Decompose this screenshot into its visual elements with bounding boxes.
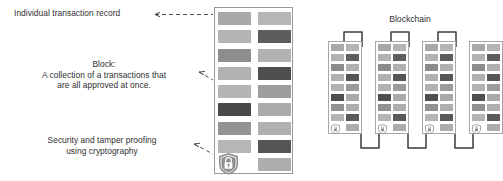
main-block-row: [218, 12, 291, 25]
transaction-bar: [393, 94, 406, 101]
transaction-bar: [472, 74, 485, 81]
transaction-bar: [346, 114, 359, 121]
transaction-bar: [331, 114, 344, 121]
transaction-bar: [378, 44, 391, 51]
transaction-bar: [487, 54, 500, 61]
blockchain-block-row: [425, 64, 453, 71]
blockchain-block-row: [472, 74, 500, 81]
transaction-bar: [393, 104, 406, 111]
blockchain-block-row: [472, 104, 500, 111]
shield-icon: [331, 124, 340, 134]
annotation-block-line-1: Block:: [8, 59, 200, 70]
main-block-row: [218, 140, 291, 153]
transaction-bar: [331, 104, 344, 111]
transaction-bar: [425, 84, 438, 91]
transaction-bar: [258, 103, 291, 116]
blockchain-block-row: [331, 54, 359, 61]
transaction-bar: [346, 54, 359, 61]
transaction-bar: [393, 114, 406, 121]
transaction-bar: [425, 64, 438, 71]
main-block-row: [218, 49, 291, 62]
transaction-bar: [472, 84, 485, 91]
transaction-bar: [487, 104, 500, 111]
transaction-bar: [346, 74, 359, 81]
transaction-bar: [346, 44, 359, 51]
blockchain-block-row: [378, 64, 406, 71]
blockchain-block-row: [331, 94, 359, 101]
transaction-bar: [218, 85, 251, 98]
transaction-bar: [378, 104, 391, 111]
transaction-bar: [487, 124, 500, 131]
annotation-block: Block: A collection of a transactions th…: [8, 59, 200, 91]
transaction-bar: [440, 74, 453, 81]
blockchain-block-row: [331, 74, 359, 81]
transaction-bar: [472, 94, 485, 101]
blockchain-block-row: [378, 124, 406, 131]
transaction-bar: [472, 54, 485, 61]
transaction-bar: [425, 104, 438, 111]
transaction-bar: [378, 54, 391, 61]
transaction-bar: [218, 49, 251, 62]
transaction-bar: [393, 64, 406, 71]
transaction-bar: [331, 44, 344, 51]
blockchain-block-row: [472, 94, 500, 101]
main-block-row: [218, 67, 291, 80]
main-block-row: [218, 30, 291, 43]
blockchain-block-row: [331, 64, 359, 71]
transaction-bar: [425, 94, 438, 101]
transaction-bar: [487, 94, 500, 101]
transaction-bar: [331, 54, 344, 61]
main-block-row: [218, 122, 291, 135]
transaction-bar: [346, 104, 359, 111]
blockchain-block-row: [472, 44, 500, 51]
blockchain-block-row: [378, 114, 406, 121]
annotation-security: Security and tamper proofing using crypt…: [14, 135, 190, 156]
blockchain-block-row: [425, 54, 453, 61]
transaction-bar: [425, 74, 438, 81]
blockchain-block-row: [331, 114, 359, 121]
transaction-bar: [378, 84, 391, 91]
blockchain-block-row: [425, 94, 453, 101]
transaction-bar: [440, 124, 453, 131]
main-block-rows: [218, 12, 291, 171]
blockchain-block-3: [422, 41, 456, 134]
main-block-row: [218, 158, 291, 171]
blockchain-block-row: [472, 64, 500, 71]
transaction-bar: [440, 84, 453, 91]
transaction-bar: [258, 122, 291, 135]
transaction-bar: [258, 12, 291, 25]
transaction-bar: [331, 84, 344, 91]
blockchain-block-3-rows: [425, 44, 453, 131]
annotation-block-line-2: A collection of a transactions that: [8, 70, 200, 81]
transaction-bar: [258, 85, 291, 98]
shield-icon: [378, 124, 387, 134]
transaction-bar: [487, 74, 500, 81]
transaction-bar: [218, 122, 251, 135]
blockchain-block-row: [378, 84, 406, 91]
transaction-bar: [472, 104, 485, 111]
transaction-bar: [440, 54, 453, 61]
transaction-bar: [393, 44, 406, 51]
blockchain-block-row: [378, 44, 406, 51]
blockchain-block-1: [328, 41, 362, 134]
transaction-bar: [487, 84, 500, 91]
blockchain-block-row: [378, 104, 406, 111]
blockchain-block-row: [472, 114, 500, 121]
transaction-bar: [331, 64, 344, 71]
transaction-bar: [393, 54, 406, 61]
annotation-security-line-1: Security and tamper proofing: [14, 135, 190, 146]
transaction-bar: [393, 124, 406, 131]
main-block-diagram: [214, 7, 293, 174]
main-block-row: [218, 103, 291, 116]
blockchain-block-row: [472, 84, 500, 91]
transaction-bar: [258, 140, 291, 153]
annotation-block-line-3: are all approved at once.: [8, 80, 200, 91]
blockchain-group: Blockchain: [322, 14, 498, 169]
transaction-bar: [378, 74, 391, 81]
transaction-bar: [472, 114, 485, 121]
transaction-bar: [346, 64, 359, 71]
blockchain-block-row: [425, 44, 453, 51]
transaction-bar: [440, 44, 453, 51]
transaction-bar: [258, 30, 291, 43]
